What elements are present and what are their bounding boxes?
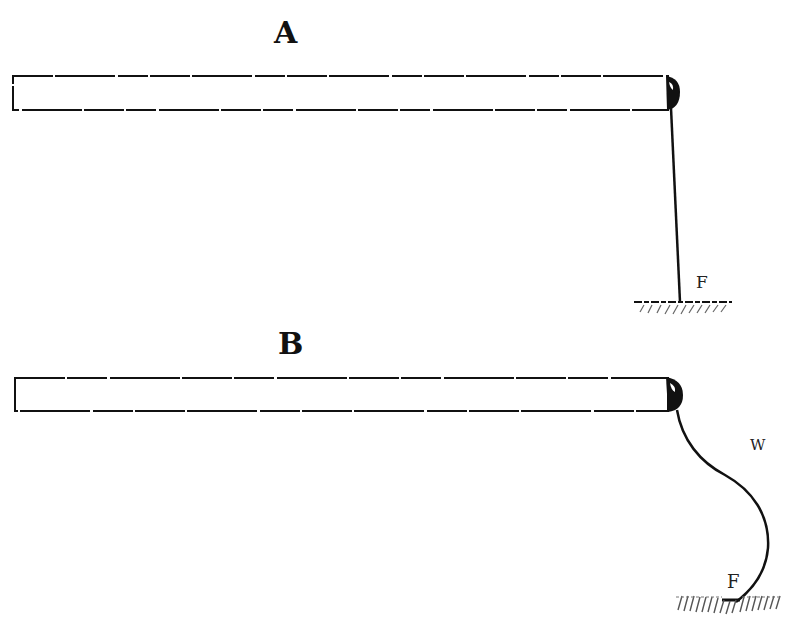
rod-b [15, 378, 668, 411]
label-a-f: F [696, 272, 708, 292]
ground-a [634, 302, 732, 314]
ground-b [676, 596, 782, 614]
panel-a: A F [13, 15, 732, 314]
panel-b-title: B [278, 326, 303, 361]
label-b-f: F [727, 571, 740, 592]
rod-a-end-cap [666, 76, 680, 110]
label-b-w: W [750, 436, 766, 454]
rod-a [13, 76, 668, 110]
rod-b-end-cap [666, 377, 683, 412]
panel-a-title: A [273, 15, 298, 50]
panel-b: B W F [15, 326, 782, 614]
thread-a [671, 108, 680, 302]
diagram-canvas: A F [0, 0, 792, 631]
